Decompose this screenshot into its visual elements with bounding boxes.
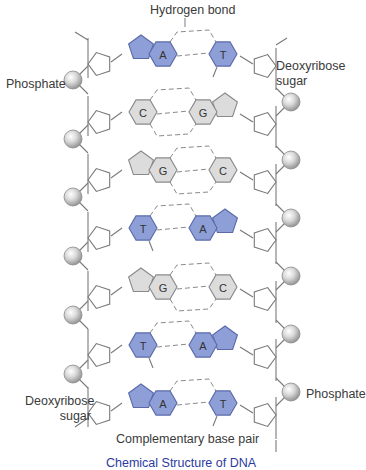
base-pair-CG: CG [129,88,237,136]
right-backbone [240,38,287,452]
phosphate-label-top: Phosphate [6,77,66,92]
base-letter-left: G [159,165,168,177]
base-pairs: ATCGGCTAGCTAAT [129,30,238,426]
base-letter-left: A [159,49,167,61]
deoxyribose-sugar-left [88,53,110,76]
figure-caption: Chemical Structure of DNA [0,456,362,470]
base-letter-right: A [199,223,207,235]
phosphate-sphere-right [282,325,300,343]
phosphate-sphere-left [64,130,82,148]
base-letter-right: G [199,107,208,119]
phosphate-sphere-right [282,267,300,285]
deoxyribose-sugar-left [88,286,110,309]
deoxyribose-sugar-left [88,169,110,192]
left-backbone [75,32,122,427]
phosphate-label-bottom: Phosphate [306,387,366,402]
sugar-word: sugar [276,74,345,89]
base-letter-left: T [140,223,147,235]
deoxyribose-word: Deoxyribose [25,394,91,409]
deoxyribose-sugar-label-bottom: Deoxyribose sugar [25,394,91,424]
deoxyribose-sugar-left [88,227,110,250]
deoxyribose-sugar-right [254,113,276,136]
phosphate-sphere-right [282,93,300,111]
base-pair-AT: AT [129,30,237,77]
deoxyribose-sugar-left [88,344,110,367]
deoxyribose-sugar-right [254,288,276,311]
phosphate-sphere-right [282,151,300,169]
deoxyribose-sugar-label-top: Deoxyribose sugar [276,59,345,89]
phosphate-sphere-right [282,383,300,401]
base-letter-left: G [159,282,168,294]
deoxyribose-sugar-left [88,111,110,134]
base-pair-TA: TA [129,204,237,251]
deoxyribose-sugar-right [254,404,276,427]
phosphate-sphere-left [64,306,82,324]
base-letter-right: C [219,165,227,177]
deoxyribose-sugar-right [254,346,276,369]
phosphate-sphere-left [64,188,82,206]
deoxyribose-sugar-right [254,171,276,194]
base-pair-TA: TA [129,321,237,368]
base-letter-left: A [159,398,167,410]
base-pair-GC: GC [129,146,237,194]
phosphate-sphere-left [64,71,82,89]
base-letter-right: C [219,282,227,294]
phosphate-sphere-left [64,365,82,383]
base-pair-AT: AT [129,379,237,426]
hydrogen-bond-label: Hydrogen bond [150,3,235,18]
phosphate-sphere-left [64,247,82,265]
phosphate-sphere-right [282,209,300,227]
base-letter-left: C [139,107,147,119]
base-letter-right: T [220,49,227,61]
base-letter-right: T [220,398,227,410]
deoxyribose-sugar-right [254,55,276,78]
base-letter-right: A [199,340,207,352]
base-letter-left: T [140,340,147,352]
deoxyribose-sugar-right [254,229,276,252]
deoxyribose-word: Deoxyribose [276,59,345,74]
sugar-word: sugar [25,409,91,424]
base-pair-GC: GC [129,263,237,311]
complementary-base-pair-label: Complementary base pair [116,432,259,447]
